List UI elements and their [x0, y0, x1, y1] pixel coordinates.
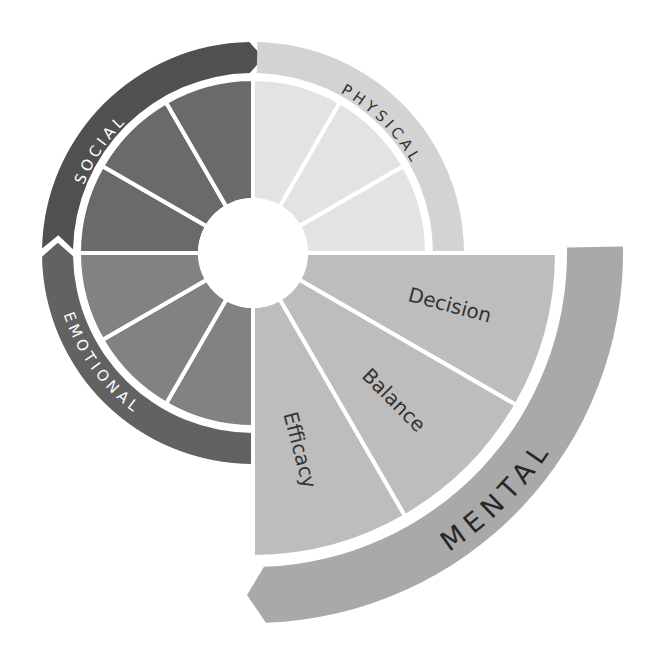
quadrant-mental: MENTAL Decision Balance Efficacy — [247, 247, 623, 623]
center-hole — [198, 198, 308, 308]
wellbeing-wheel-diagram: SOCIAL PHYSICAL EMOTIONAL MENTAL Decisio… — [0, 0, 660, 660]
